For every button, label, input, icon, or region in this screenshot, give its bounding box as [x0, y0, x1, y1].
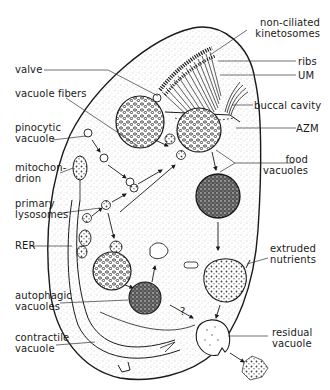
label-vacuole-fibers: vacuole fibers	[15, 88, 87, 99]
label-food-vacuoles: food vacuoles	[260, 154, 308, 176]
label-primary-lysosomes: primary lysosomes	[15, 198, 68, 220]
label-azm: AZM	[296, 123, 319, 134]
label-extruded-nutrients: extruded nutrients	[270, 243, 316, 265]
egested-debris	[242, 356, 268, 380]
cell-diagram: valve vacuole fibers pinocytic vacuole m…	[0, 0, 330, 390]
label-ribs: ribs	[298, 56, 317, 67]
label-autophagic-vacuoles: autophagic vacuoles	[15, 290, 72, 312]
label-residual-vacuole: residual vacuole	[272, 327, 312, 349]
label-mitochondrion: mitochon- drion	[15, 162, 66, 184]
label-rer: RER	[15, 240, 36, 251]
label-contractile-vacuole: contractile vacuole	[15, 332, 69, 354]
residual-vacuole-shape	[196, 320, 229, 356]
label-um: UM	[298, 70, 314, 81]
label-buccal-cavity: buccal cavity	[254, 100, 321, 111]
label-valve: valve	[15, 64, 42, 75]
label-pinocytic-vacuole: pinocytic vacuole	[15, 122, 61, 144]
label-non-ciliated-kinetosomes: non-ciliated kinetosomes	[248, 17, 320, 39]
question-mark-label: ?	[180, 306, 185, 317]
food-vacuole-2	[196, 174, 240, 218]
